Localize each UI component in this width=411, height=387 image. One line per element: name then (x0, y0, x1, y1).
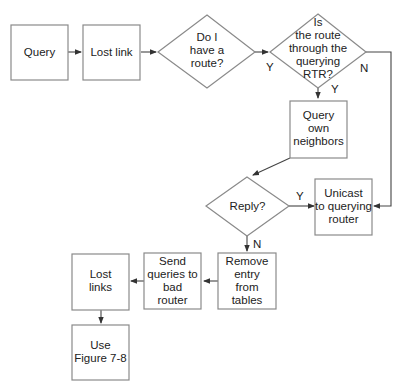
node-lost-links-line-2: links (89, 281, 112, 293)
node-reply-line-1: Reply? (230, 200, 266, 212)
node-have-route-line-3: route? (191, 57, 224, 69)
node-have-route-line-2: have a (190, 44, 225, 56)
node-lost-link-line-1: Lost link (90, 46, 132, 58)
edge-label-n-route-through: N (360, 62, 368, 74)
node-unicast: Unicast to querying router (315, 179, 372, 235)
node-use-figure-line-1: Use (90, 339, 110, 351)
edge-label-y-have-route: Y (266, 61, 274, 73)
edge-label-n-reply: N (253, 238, 261, 250)
node-use-figure-line-2: Figure 7-8 (74, 352, 126, 364)
node-unicast-line-3: router (328, 213, 358, 225)
node-route-through-rtr-decision: Is the route through the querying RTR? (270, 14, 366, 88)
node-unicast-line-2: to querying (315, 200, 372, 212)
node-route-through-line-1: Is (314, 16, 323, 28)
node-send-queries-line-1: Send (159, 255, 186, 267)
node-remove-entry: Remove entry from tables (218, 253, 276, 309)
node-lost-links: Lost links (72, 254, 129, 310)
node-send-queries-line-2: queries to (147, 268, 198, 280)
node-route-through-line-2: the route (295, 29, 340, 41)
node-send-queries-line-3: bad (163, 281, 182, 293)
node-route-through-line-4: querying (296, 55, 340, 67)
node-query-line-1: Query (24, 46, 56, 58)
node-route-through-line-5: RTR? (303, 68, 333, 80)
edge-query-neighbors-to-reply (253, 158, 290, 175)
edge-label-y-route-through: Y (331, 83, 339, 95)
node-unicast-line-1: Unicast (324, 187, 363, 199)
node-reply-decision: Reply? (206, 177, 289, 236)
node-send-queries: Send queries to bad router (144, 253, 201, 309)
node-query-neighbors-line-1: Query (303, 109, 335, 121)
node-remove-entry-line-1: Remove (226, 255, 269, 267)
node-have-route-line-1: Do I (196, 31, 217, 43)
node-lost-link: Lost link (83, 25, 140, 80)
node-query-neighbors-line-2: own (308, 122, 329, 134)
node-query-neighbors: Query own neighbors (290, 101, 347, 158)
edge-label-y-reply: Y (296, 190, 304, 202)
node-lost-links-line-1: Lost (90, 268, 113, 280)
node-send-queries-line-4: router (157, 294, 187, 306)
node-have-route-decision: Do I have a route? (158, 15, 255, 88)
node-remove-entry-line-4: tables (232, 294, 263, 306)
node-query: Query (11, 25, 68, 80)
node-route-through-line-3: through the (289, 42, 347, 54)
node-use-figure: Use Figure 7-8 (72, 325, 129, 380)
node-query-neighbors-line-3: neighbors (293, 135, 344, 147)
flowchart: Y Y N Y N Query Lost link Do I have a ro… (0, 0, 411, 387)
node-remove-entry-line-3: from (236, 281, 259, 293)
node-remove-entry-line-2: entry (234, 268, 260, 280)
